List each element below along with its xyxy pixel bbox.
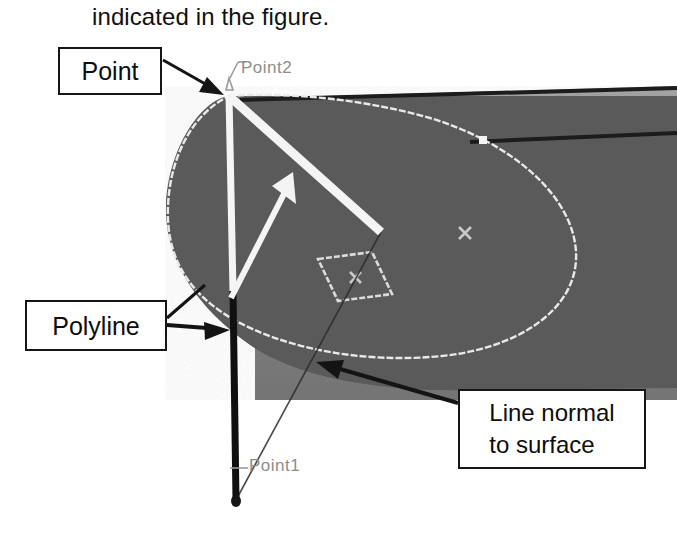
- callout-label-line-normal: Line normal to surface: [483, 397, 620, 461]
- tag-leader-point2-stem: [230, 62, 238, 78]
- figure-page: indicated in the figure.: [0, 0, 677, 535]
- cad-tag-point1: Point1: [249, 456, 300, 476]
- polyline-end-node: [231, 495, 241, 507]
- surface-shading-group: [166, 86, 677, 400]
- callout-box-polyline: Polyline: [25, 300, 167, 351]
- callout-label-polyline: Polyline: [46, 311, 146, 341]
- leader-polyline-upper: [167, 285, 205, 318]
- surface-dark-face: [166, 96, 677, 390]
- polyline-upper-segment: [229, 96, 233, 291]
- callout-box-line-normal: Line normal to surface: [458, 389, 646, 469]
- vertex-square-marker: [479, 136, 487, 144]
- callout-label-point: Point: [76, 56, 145, 86]
- cad-tag-point2: Point2: [241, 58, 292, 78]
- tag-pointer-glyph-point2: [226, 78, 233, 90]
- callout-box-point: Point: [58, 47, 162, 95]
- leader-polyline-lower: [167, 325, 207, 328]
- leader-arrowhead-point-icon: [199, 77, 224, 95]
